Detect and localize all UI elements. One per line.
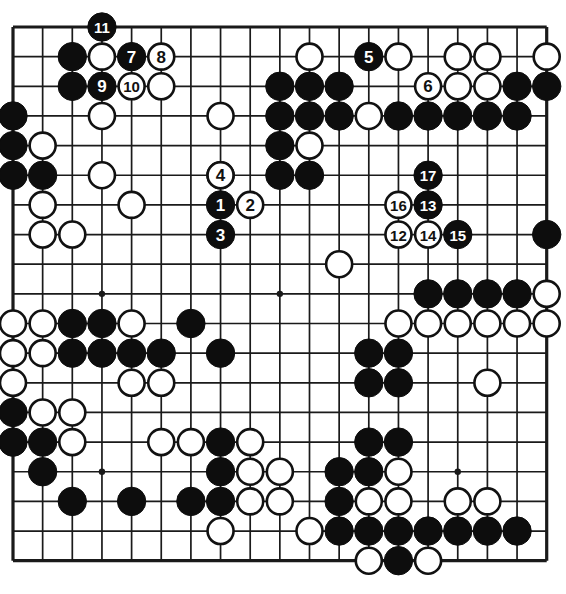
white-stone[interactable] xyxy=(59,222,85,248)
black-stone[interactable] xyxy=(0,428,27,456)
black-stone[interactable] xyxy=(0,161,27,189)
black-stone[interactable] xyxy=(117,487,145,515)
white-stone[interactable] xyxy=(208,518,234,544)
white-stone[interactable] xyxy=(415,311,441,337)
black-stone[interactable] xyxy=(325,72,353,100)
black-stone[interactable] xyxy=(266,102,294,130)
black-stone[interactable] xyxy=(0,398,27,426)
black-stone[interactable] xyxy=(28,161,56,189)
black-stone[interactable] xyxy=(473,517,501,545)
white-stone[interactable] xyxy=(0,370,26,396)
white-stone[interactable] xyxy=(30,222,56,248)
black-stone[interactable] xyxy=(503,72,531,100)
black-stone[interactable] xyxy=(58,339,86,367)
black-stone[interactable] xyxy=(414,517,442,545)
black-stone[interactable] xyxy=(28,428,56,456)
white-stone[interactable] xyxy=(474,311,500,337)
white-stone[interactable] xyxy=(30,311,56,337)
white-stone[interactable] xyxy=(267,459,293,485)
black-stone[interactable] xyxy=(58,487,86,515)
white-stone[interactable] xyxy=(474,370,500,396)
black-stone[interactable] xyxy=(355,369,383,397)
black-stone[interactable] xyxy=(414,102,442,130)
white-stone[interactable] xyxy=(0,311,26,337)
white-stone[interactable] xyxy=(356,103,382,129)
black-stone[interactable] xyxy=(206,339,234,367)
white-stone[interactable] xyxy=(445,44,471,70)
black-stone[interactable] xyxy=(58,72,86,100)
white-stone[interactable] xyxy=(445,73,471,99)
white-stone[interactable] xyxy=(297,518,323,544)
black-stone[interactable] xyxy=(117,339,145,367)
black-stone[interactable] xyxy=(58,309,86,337)
black-stone[interactable] xyxy=(325,102,353,130)
white-stone[interactable] xyxy=(445,311,471,337)
black-stone[interactable] xyxy=(444,280,472,308)
black-stone[interactable] xyxy=(533,72,561,100)
white-stone[interactable] xyxy=(504,311,530,337)
white-stone[interactable] xyxy=(119,370,145,396)
black-stone[interactable] xyxy=(266,161,294,189)
white-stone[interactable] xyxy=(30,340,56,366)
white-stone[interactable] xyxy=(89,162,115,188)
black-stone[interactable] xyxy=(414,280,442,308)
black-stone[interactable] xyxy=(266,131,294,159)
white-stone[interactable] xyxy=(445,488,471,514)
white-stone[interactable] xyxy=(474,73,500,99)
black-stone[interactable] xyxy=(384,547,412,575)
white-stone[interactable] xyxy=(148,370,174,396)
black-stone[interactable] xyxy=(147,339,175,367)
white-stone[interactable] xyxy=(415,548,441,574)
black-stone[interactable] xyxy=(88,309,116,337)
white-stone[interactable] xyxy=(30,399,56,425)
go-board[interactable]: 1234567891011121314151617 xyxy=(0,0,566,594)
go-board-canvas[interactable]: 1234567891011121314151617 xyxy=(0,0,566,594)
white-stone[interactable] xyxy=(534,44,560,70)
black-stone[interactable] xyxy=(384,102,412,130)
black-stone[interactable] xyxy=(355,428,383,456)
white-stone[interactable] xyxy=(385,459,411,485)
black-stone[interactable] xyxy=(473,102,501,130)
black-stone[interactable] xyxy=(28,458,56,486)
black-stone[interactable] xyxy=(0,131,27,159)
white-stone[interactable] xyxy=(0,340,26,366)
white-stone[interactable] xyxy=(59,429,85,455)
white-stone[interactable] xyxy=(30,192,56,218)
white-stone[interactable] xyxy=(267,488,293,514)
white-stone[interactable] xyxy=(385,311,411,337)
black-stone[interactable] xyxy=(355,339,383,367)
black-stone[interactable] xyxy=(533,220,561,248)
black-stone[interactable] xyxy=(206,487,234,515)
white-stone[interactable] xyxy=(237,459,263,485)
white-stone[interactable] xyxy=(89,103,115,129)
black-stone[interactable] xyxy=(384,369,412,397)
black-stone[interactable] xyxy=(444,102,472,130)
white-stone[interactable] xyxy=(385,488,411,514)
black-stone[interactable] xyxy=(0,102,27,130)
black-stone[interactable] xyxy=(503,517,531,545)
white-stone[interactable] xyxy=(178,429,204,455)
white-stone[interactable] xyxy=(237,488,263,514)
black-stone[interactable] xyxy=(58,42,86,70)
black-stone[interactable] xyxy=(444,517,472,545)
white-stone[interactable] xyxy=(119,311,145,337)
black-stone[interactable] xyxy=(295,72,323,100)
white-stone[interactable] xyxy=(356,548,382,574)
white-stone[interactable] xyxy=(534,311,560,337)
black-stone[interactable] xyxy=(325,517,353,545)
white-stone[interactable] xyxy=(356,488,382,514)
black-stone[interactable] xyxy=(384,339,412,367)
white-stone[interactable] xyxy=(534,281,560,307)
white-stone[interactable] xyxy=(30,133,56,159)
white-stone[interactable] xyxy=(297,44,323,70)
white-stone[interactable] xyxy=(237,429,263,455)
white-stone[interactable] xyxy=(89,44,115,70)
white-stone[interactable] xyxy=(119,192,145,218)
black-stone[interactable] xyxy=(355,458,383,486)
white-stone[interactable] xyxy=(148,429,174,455)
black-stone[interactable] xyxy=(266,72,294,100)
black-stone[interactable] xyxy=(177,309,205,337)
black-stone[interactable] xyxy=(88,339,116,367)
white-stone[interactable] xyxy=(148,73,174,99)
black-stone[interactable] xyxy=(503,102,531,130)
